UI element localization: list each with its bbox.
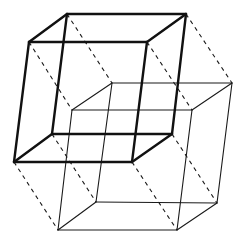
dashed-connector-d (14, 162, 58, 230)
dashed-connector-b (147, 42, 192, 110)
bold-cube (14, 14, 186, 162)
thin-edge-dh (58, 202, 96, 230)
dashed-connector-c (132, 162, 177, 230)
thin-edge-da (58, 110, 72, 230)
bold-edge-bf (147, 14, 186, 42)
bold-edge-bc (132, 42, 147, 162)
bold-edge-dh (14, 134, 52, 162)
bold-edge-fg (172, 14, 186, 134)
dashed-connector-h (52, 134, 96, 202)
thin-edge-cg (177, 203, 217, 230)
bold-edge-da (14, 42, 29, 162)
dashed-connector-a (29, 42, 72, 110)
thin-edge-ae (72, 83, 112, 110)
bold-edge-cg (132, 134, 172, 162)
dashed-connectors (14, 14, 232, 230)
thin-edge-bf (192, 83, 232, 110)
dashed-connector-g (172, 134, 217, 203)
dashed-connector-e (67, 14, 112, 83)
bold-edge-ae (29, 14, 67, 42)
dashed-connector-f (186, 14, 232, 83)
thin-edge-gh (96, 202, 217, 203)
thin-edge-he (96, 83, 112, 202)
thin-edge-fg (217, 83, 232, 203)
hypercube-diagram (0, 0, 241, 241)
thin-cube (58, 83, 232, 230)
bold-edge-he (52, 14, 67, 134)
thin-edge-bc (177, 110, 192, 230)
